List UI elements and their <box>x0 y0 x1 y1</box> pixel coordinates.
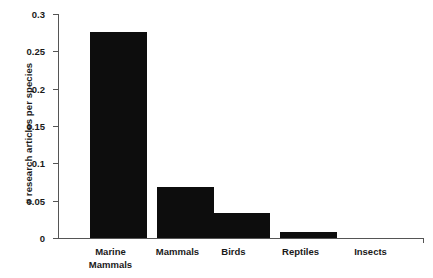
bar-chart-figure: # research articles per species 0 0.05 0… <box>0 0 433 278</box>
bar-reptiles <box>280 232 337 238</box>
y-axis-line <box>58 14 59 239</box>
y-tick-2: 0.1 <box>53 163 58 164</box>
bar-birds <box>213 213 270 238</box>
y-tick-5: 0.25 <box>53 51 58 52</box>
x-category-label-insects: Insects <box>322 246 419 259</box>
y-tick-label-4: 0.2 <box>32 83 45 94</box>
x-axis-line <box>58 238 424 239</box>
y-tick-3: 0.15 <box>53 126 58 127</box>
y-tick-4: 0.2 <box>53 89 58 90</box>
y-tick-6: 0.3 <box>53 14 58 15</box>
plot-area: 0 0.05 0.1 0.15 0.2 0.25 0.3 <box>58 14 424 238</box>
y-tick-label-1: 0.05 <box>27 195 46 206</box>
y-tick-label-5: 0.25 <box>27 46 46 57</box>
y-tick-label-3: 0.15 <box>27 121 46 132</box>
bar-marine-mammals <box>90 32 147 238</box>
bar-mammals <box>157 187 214 238</box>
y-tick-label-6: 0.3 <box>32 9 45 20</box>
y-tick-label-2: 0.1 <box>32 158 45 169</box>
y-tick-1: 0.05 <box>53 201 58 202</box>
y-tick-0: 0 <box>53 238 58 239</box>
y-tick-label-0: 0 <box>40 233 45 244</box>
x-axis-end-tick <box>423 238 424 243</box>
